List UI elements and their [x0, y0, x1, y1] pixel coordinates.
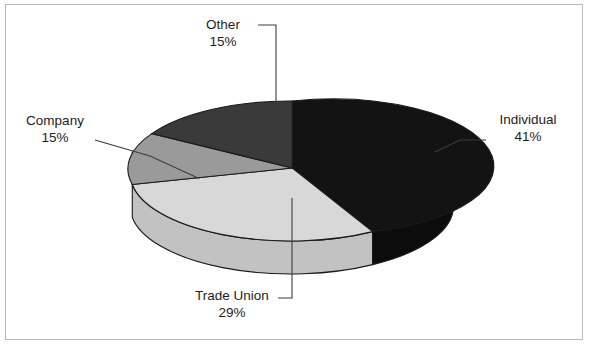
callout-name-other: Other — [192, 17, 254, 33]
callout-label-other: Other 15% — [192, 17, 254, 50]
callout-name-trade-union: Trade Union — [184, 288, 280, 304]
pie-chart-graphic — [0, 0, 592, 355]
callout-label-company: Company 15% — [16, 113, 94, 146]
callout-value-individual: 41% — [489, 129, 567, 145]
callout-name-individual: Individual — [489, 112, 567, 128]
callout-label-trade-union: Trade Union 29% — [184, 288, 280, 321]
pie-chart-figure: Other 15% Individual 41% Company 15% Tra… — [0, 0, 592, 355]
callout-name-company: Company — [16, 113, 94, 129]
callout-value-company: 15% — [16, 130, 94, 146]
callout-value-other: 15% — [192, 34, 254, 50]
callout-value-trade-union: 29% — [184, 305, 280, 321]
callout-label-individual: Individual 41% — [489, 112, 567, 145]
